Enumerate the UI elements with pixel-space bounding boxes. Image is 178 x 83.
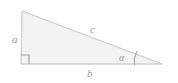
angle-alpha-label: α (119, 53, 124, 63)
side-b-label: b (87, 68, 93, 79)
side-a-label: a (12, 34, 18, 45)
right-triangle-diagram: a b c α (0, 0, 178, 83)
side-c-label: c (90, 24, 95, 35)
